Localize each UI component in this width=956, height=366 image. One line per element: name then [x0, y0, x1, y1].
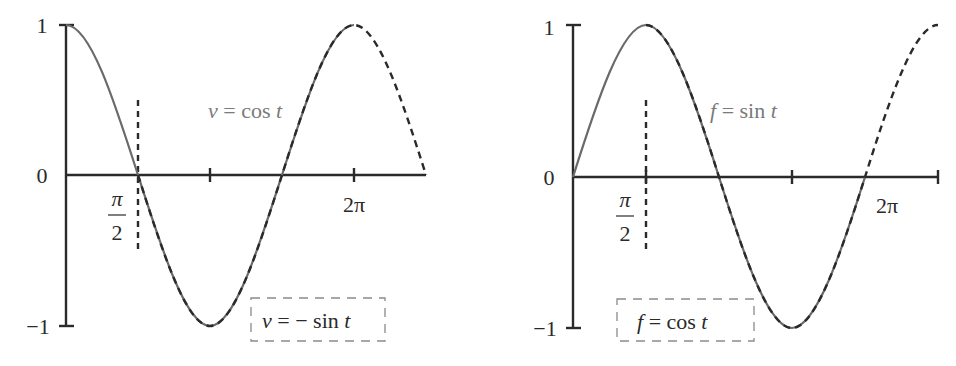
right-y-label-bottom: −1 — [533, 316, 556, 341]
left-pi-denominator: 2 — [112, 220, 123, 245]
left-y-label-top: 1 — [37, 13, 48, 38]
right-2pi-label: 2π — [876, 193, 898, 218]
left-cos-label: v = cos t — [208, 98, 283, 123]
right-y-label-zero: 0 — [544, 165, 555, 190]
right-y-label-top: 1 — [544, 15, 555, 40]
left-y-label-zero: 0 — [37, 163, 48, 188]
right-pi-numerator: π — [619, 187, 631, 212]
right-plot: 1 0 −1 π 2 2π f = sin t f = cos t — [533, 15, 938, 341]
left-y-label-bottom: −1 — [26, 314, 49, 339]
left-neg-sin-label: v = − sin t — [262, 308, 351, 333]
left-2pi-label: 2π — [343, 192, 365, 217]
right-pi-denominator: 2 — [620, 221, 631, 246]
right-cos-label: f = cos t — [637, 309, 708, 334]
figure: 1 0 −1 π 2 2π v = cos t v = − sin t 1 0 … — [0, 0, 956, 366]
left-pi-numerator: π — [111, 186, 123, 211]
left-plot: 1 0 −1 π 2 2π v = cos t v = − sin t — [26, 13, 426, 341]
right-sin-label: f = sin t — [710, 98, 778, 123]
